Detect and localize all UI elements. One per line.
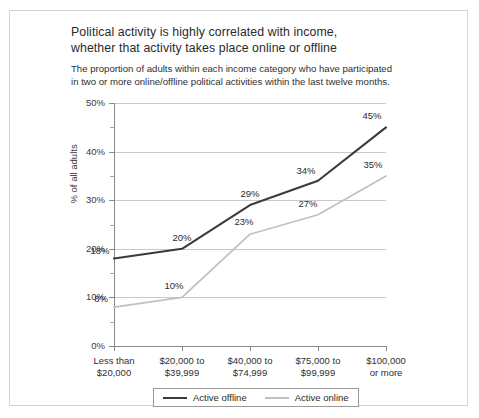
y-tick-label: 0%: [65, 340, 105, 351]
data-point-label: 27%: [298, 197, 317, 208]
y-tick-label: 40%: [65, 146, 105, 157]
legend-entry[interactable]: Active online: [265, 392, 349, 403]
y-tick-label: 30%: [65, 194, 105, 205]
chart-legend: Active offlineActive online: [153, 388, 359, 407]
data-point-label: 23%: [234, 216, 253, 227]
y-tick-label: 50%: [65, 97, 105, 108]
chart-subtitle-line-2: in two or more online/offline political …: [71, 75, 421, 88]
x-category-label-line: or more: [343, 367, 429, 379]
legend-swatch-icon: [265, 397, 289, 399]
legend-entry[interactable]: Active offline: [163, 392, 247, 403]
legend-swatch-icon: [163, 397, 187, 399]
chart-title-line-2: whether that activity takes place online…: [71, 40, 411, 56]
data-point-label: 45%: [362, 110, 381, 121]
x-tick: [250, 347, 251, 351]
x-tick: [114, 347, 115, 351]
chart-figure: Political activity is highly correlated …: [9, 10, 468, 406]
x-category-label-line: $100,000: [343, 355, 429, 367]
data-point-label: 8%: [94, 293, 108, 304]
data-point-label: 18%: [90, 244, 109, 255]
chart-subtitle-line-1: The proportion of adults within each inc…: [71, 62, 421, 75]
x-category-label: $100,000or more: [343, 355, 429, 379]
x-tick: [386, 347, 387, 351]
x-axis-line: [114, 346, 387, 347]
chart-title-line-1: Political activity is highly correlated …: [71, 24, 411, 40]
chart-subtitle: The proportion of adults within each inc…: [71, 62, 421, 88]
data-point-label: 29%: [240, 188, 259, 199]
legend-label: Active offline: [193, 392, 247, 403]
data-point-label: 20%: [172, 231, 191, 242]
chart-title: Political activity is highly correlated …: [71, 24, 411, 56]
data-point-label: 10%: [164, 280, 183, 291]
data-point-label: 35%: [363, 158, 382, 169]
x-tick: [182, 347, 183, 351]
x-tick: [318, 347, 319, 351]
plot-area: 0%10%20%30%40%50% 18%20%29%34%45%8%10%23…: [114, 103, 386, 346]
legend-label: Active online: [295, 392, 349, 403]
data-point-label: 34%: [296, 164, 315, 175]
